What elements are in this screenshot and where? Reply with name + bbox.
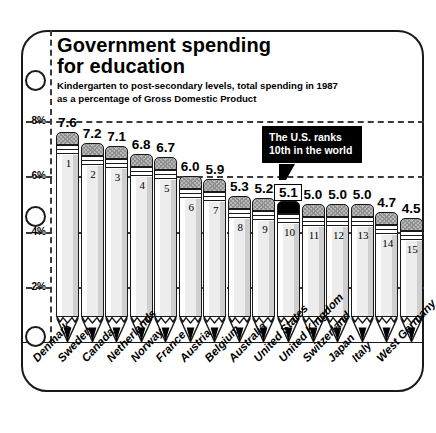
country-label-west-germany: West Germany	[374, 297, 436, 364]
x-axis-country-labels: DenmarkSwedenCanadaNetherlandsNorwayFran…	[0, 0, 436, 433]
callout-pointer	[279, 164, 295, 180]
callout-line1: The U.S. ranks	[269, 131, 356, 144]
punch-hole-middle	[25, 206, 46, 227]
callout-line2: 10th in the world	[269, 144, 356, 157]
punch-hole-top	[25, 70, 46, 91]
us-rank-callout: The U.S. ranks 10th in the world	[262, 126, 362, 163]
punch-hole-bottom	[25, 326, 46, 347]
